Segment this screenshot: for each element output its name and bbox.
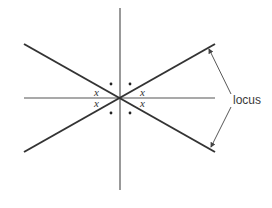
point-marker — [129, 112, 132, 115]
locus-arrow-upper — [209, 49, 231, 94]
locus-diagram: x x x x locus — [0, 0, 272, 208]
point-marker — [110, 83, 113, 86]
locus-label: locus — [233, 93, 261, 107]
angle-label: x — [93, 97, 99, 109]
point-marker — [129, 83, 132, 86]
angle-label: x — [139, 97, 145, 109]
point-marker — [110, 112, 113, 115]
locus-arrow-lower — [211, 107, 231, 147]
